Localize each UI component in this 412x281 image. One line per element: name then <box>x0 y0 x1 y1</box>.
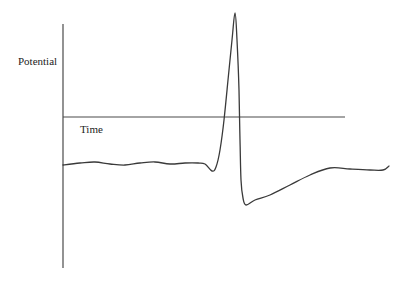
action-potential-figure: Potential Time <box>0 0 412 281</box>
plot-canvas <box>0 0 412 281</box>
x-axis-label: Time <box>80 123 103 135</box>
potential-trace <box>63 13 389 205</box>
y-axis-label: Potential <box>18 55 57 67</box>
